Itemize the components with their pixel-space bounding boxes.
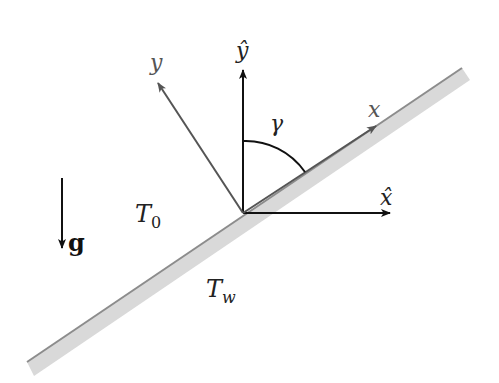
x-hat-label: x̂ bbox=[380, 185, 393, 210]
gamma-label: γ bbox=[270, 111, 284, 136]
fluid-temperature-label: T0 bbox=[135, 200, 161, 232]
y-label: y bbox=[149, 50, 163, 75]
gravity-label: g bbox=[68, 228, 85, 257]
x-arrow bbox=[243, 126, 376, 213]
Tw-subscript: w bbox=[222, 288, 236, 307]
Tw-label: Tw bbox=[206, 275, 236, 307]
y-hat-axis: ŷ bbox=[235, 38, 249, 213]
x-axis: x bbox=[243, 97, 381, 213]
x-label: x bbox=[368, 97, 381, 122]
inclined-plate-diagram: ŷ x̂ y x γ T0 Tw g bbox=[0, 0, 499, 383]
plate-body bbox=[27, 68, 470, 376]
T0-subscript: 0 bbox=[151, 213, 161, 232]
y-axis: y bbox=[149, 50, 243, 213]
T0-label: T0 bbox=[135, 200, 161, 232]
y-hat-label: ŷ bbox=[235, 38, 249, 63]
gamma-arc bbox=[243, 141, 305, 172]
angle-arc: γ bbox=[243, 111, 305, 172]
gravity-vector: g bbox=[62, 178, 85, 257]
y-arrow bbox=[158, 83, 243, 213]
plate bbox=[27, 68, 470, 376]
plate-top-edge bbox=[27, 68, 462, 362]
wall-temperature-label: Tw bbox=[206, 275, 236, 307]
